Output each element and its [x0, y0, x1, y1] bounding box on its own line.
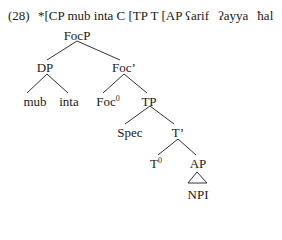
- node-inta: inta: [59, 95, 79, 108]
- node-spec: Spec: [117, 126, 142, 139]
- branch-dp-inta: [47, 74, 68, 93]
- foc0-superscript: 0: [116, 94, 120, 103]
- node-dp: DP: [37, 61, 54, 74]
- node-foc0: Foc0: [96, 95, 120, 108]
- branch-focbar-foc0: [103, 74, 124, 93]
- branch-tbar-ap: [178, 139, 196, 155]
- node-focp: FocP: [64, 29, 91, 42]
- branch-focp-focbar: [77, 41, 120, 60]
- node-foc-bar: Foc’: [112, 61, 136, 74]
- node-ap: AP: [190, 157, 207, 170]
- ap-triangle: [188, 172, 207, 183]
- node-mub: mub: [23, 95, 46, 108]
- node-npi: NPI: [188, 188, 209, 201]
- t0-superscript: 0: [158, 156, 162, 165]
- node-t-bar: T’: [172, 126, 184, 139]
- node-tp: TP: [141, 95, 156, 108]
- branch-tbar-t0: [158, 139, 178, 155]
- branch-focp-dp: [47, 41, 77, 60]
- t0-label: T: [150, 156, 158, 171]
- foc0-label: Foc: [96, 94, 116, 109]
- node-t0: T0: [150, 157, 162, 170]
- branch-focbar-tp: [124, 74, 147, 93]
- branch-dp-mub: [27, 74, 47, 93]
